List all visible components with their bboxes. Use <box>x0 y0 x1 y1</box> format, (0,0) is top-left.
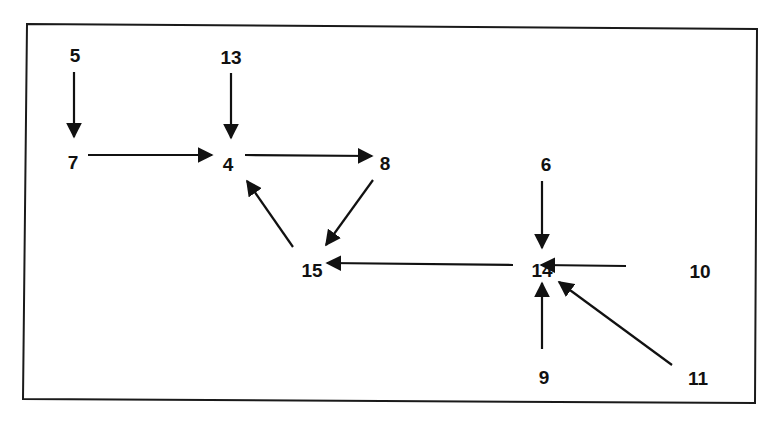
network-diagram: 5137486151410911 <box>0 0 780 432</box>
node-10: 10 <box>689 261 710 282</box>
node-15: 15 <box>301 260 323 281</box>
node-11: 11 <box>688 368 709 389</box>
node-9: 9 <box>539 367 550 388</box>
node-14: 14 <box>531 260 553 281</box>
node-5: 5 <box>70 45 81 66</box>
edge-4-to-8-arrow-icon <box>245 155 372 156</box>
node-13: 13 <box>220 47 241 68</box>
edge-10-to-14-arrow-icon <box>541 265 626 266</box>
node-7: 7 <box>68 152 79 173</box>
node-6: 6 <box>541 154 552 175</box>
node-4: 4 <box>223 154 234 175</box>
node-8: 8 <box>380 153 391 174</box>
